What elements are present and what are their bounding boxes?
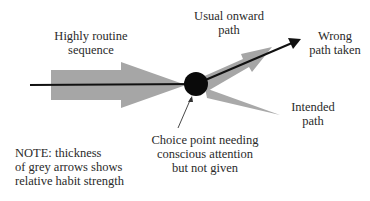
wrong-path-label: Wrong path taken [300,29,370,57]
wrong-label-line1: Wrong [300,29,370,43]
note-line1: NOTE: thickness [15,146,135,160]
choice-label-line1: Choice point needing [140,133,270,147]
choice-label-line3: but not given [140,161,270,175]
intended-path-label: Intended path [283,100,343,128]
routine-label-line1: Highly routine [46,29,136,43]
note-label: NOTE: thickness of grey arrows shows rel… [15,146,135,188]
intended-label-line2: path [283,114,343,128]
wrong-path-line [196,43,292,84]
routine-sequence-label: Highly routine sequence [46,29,136,57]
usual-path-arrow [200,47,272,92]
choice-label-line2: conscious attention [140,147,270,161]
note-line2: of grey arrows shows [15,160,135,174]
routine-label-line2: sequence [46,43,136,57]
choice-point-dot [184,72,208,96]
usual-label-line2: path [184,23,274,37]
choice-pointer-arrowhead [188,96,193,102]
habit-slip-diagram: Highly routine sequence Usual onward pat… [0,0,370,201]
usual-label-line1: Usual onward [184,9,274,23]
usual-path-label: Usual onward path [184,9,274,37]
wrong-label-line2: path taken [300,43,370,57]
intended-path-arrow [205,88,280,115]
choice-pointer-line [178,98,191,128]
action-line [30,84,196,85]
intended-label-line1: Intended [283,100,343,114]
note-line3: relative habit strength [15,174,135,188]
choice-point-label: Choice point needing conscious attention… [140,133,270,175]
